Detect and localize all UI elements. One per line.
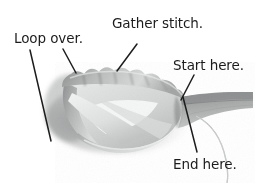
callout-loop-over: Loop over. — [14, 32, 83, 46]
ribbon-gather-stitch-figure: Loop over. Gather stitch. Start here. En… — [0, 0, 261, 183]
callout-gather-stitch: Gather stitch. — [112, 17, 203, 31]
callout-start-here: Start here. — [173, 59, 244, 73]
callout-end-here: End here. — [173, 158, 237, 172]
